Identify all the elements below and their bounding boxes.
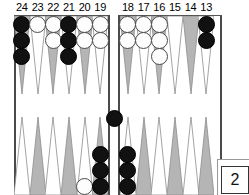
checker-point-6[interactable] bbox=[119, 162, 136, 179]
point-triangle[interactable] bbox=[136, 117, 152, 195]
checker-point-7[interactable] bbox=[92, 178, 109, 195]
checker-point-21[interactable] bbox=[60, 48, 77, 65]
point-label-15: 15 bbox=[167, 1, 183, 14]
backgammon-board: 242322212019181716151413 2 bbox=[0, 0, 249, 195]
checker-point-8[interactable] bbox=[76, 178, 93, 195]
point-triangle[interactable] bbox=[14, 117, 30, 195]
checker-point-18[interactable] bbox=[119, 32, 136, 49]
checker-point-16[interactable] bbox=[151, 32, 168, 49]
checker-point-6[interactable] bbox=[119, 146, 136, 163]
point-label-23: 23 bbox=[30, 1, 46, 14]
point-label-19: 19 bbox=[92, 1, 108, 14]
checker-point-24[interactable] bbox=[13, 48, 30, 65]
checker-point-20[interactable] bbox=[76, 16, 93, 33]
point-label-21: 21 bbox=[61, 1, 77, 14]
checker-point-20[interactable] bbox=[76, 32, 93, 49]
point-label-22: 22 bbox=[45, 1, 61, 14]
point-label-13: 13 bbox=[198, 1, 214, 14]
checker-point-17[interactable] bbox=[135, 32, 152, 49]
checker-point-17[interactable] bbox=[135, 16, 152, 33]
checker-point-21[interactable] bbox=[60, 32, 77, 49]
checker-point-19[interactable] bbox=[92, 32, 109, 49]
point-label-17: 17 bbox=[136, 1, 152, 14]
point-triangle[interactable] bbox=[183, 16, 199, 94]
checker-point-24[interactable] bbox=[13, 32, 30, 49]
checker-point-7[interactable] bbox=[92, 162, 109, 179]
point-triangle[interactable] bbox=[183, 117, 199, 195]
checker-on-bar[interactable] bbox=[106, 110, 123, 127]
checker-point-7[interactable] bbox=[92, 146, 109, 163]
point-triangle[interactable] bbox=[45, 117, 61, 195]
point-number-row: 242322212019181716151413 bbox=[0, 0, 249, 16]
checker-point-6[interactable] bbox=[119, 178, 136, 195]
checker-point-16[interactable] bbox=[151, 48, 168, 65]
checker-point-16[interactable] bbox=[151, 16, 168, 33]
point-triangle[interactable] bbox=[61, 117, 77, 195]
point-triangle[interactable] bbox=[151, 117, 167, 195]
doubling-cube-value: 2 bbox=[231, 172, 240, 188]
checker-point-24[interactable] bbox=[13, 16, 30, 33]
checker-point-13[interactable] bbox=[198, 16, 215, 33]
doubling-cube-area: 2 bbox=[217, 159, 249, 195]
point-label-14: 14 bbox=[183, 1, 199, 14]
point-triangle[interactable] bbox=[30, 117, 46, 195]
checker-point-19[interactable] bbox=[92, 16, 109, 33]
point-triangle[interactable] bbox=[198, 117, 214, 195]
doubling-cube[interactable]: 2 bbox=[221, 166, 249, 194]
checker-point-23[interactable] bbox=[29, 16, 46, 33]
point-label-18: 18 bbox=[120, 1, 136, 14]
checker-point-13[interactable] bbox=[198, 32, 215, 49]
checker-point-21[interactable] bbox=[60, 16, 77, 33]
point-triangle[interactable] bbox=[167, 117, 183, 195]
point-label-20: 20 bbox=[77, 1, 93, 14]
point-label-16: 16 bbox=[151, 1, 167, 14]
point-triangle[interactable] bbox=[167, 16, 183, 94]
point-label-24: 24 bbox=[14, 1, 30, 14]
checker-point-18[interactable] bbox=[119, 16, 136, 33]
